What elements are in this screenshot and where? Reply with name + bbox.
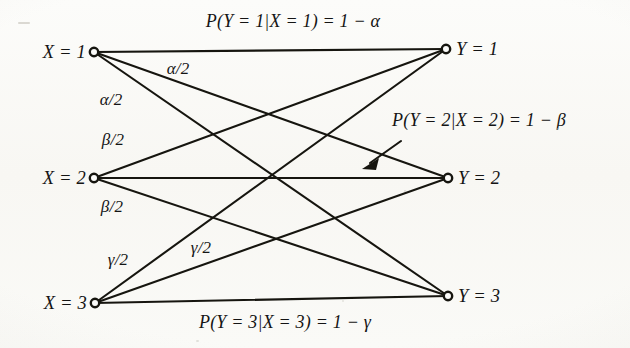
node-x1 [90,48,98,56]
node-x3 [91,299,99,307]
node-y1 [442,45,450,53]
edge-x1-y1 [94,49,446,52]
probability-label-middle: P(Y = 2|X = 2) = 1 − β [392,111,566,129]
edge-label-alpha-half-lower: α/2 [100,91,123,108]
edge-x1-y3 [94,52,448,296]
edge-x3-y1 [95,49,446,303]
graph-canvas [0,0,630,348]
node-label-y3: Y = 3 [458,287,500,306]
node-x2 [90,174,98,182]
node-label-y1: Y = 1 [456,40,498,59]
pointer-arrow-to-middle-edge [362,141,401,170]
node-label-x1: X = 1 [43,43,86,62]
node-y3 [444,292,452,300]
node-label-x2: X = 2 [43,169,86,188]
edge-label-gamma-half-upper: γ/2 [191,239,212,256]
edge-label-beta-half-upper: β/2 [102,131,124,148]
node-label-x3: X = 3 [44,294,87,313]
node-label-y2: Y = 2 [458,169,500,188]
edge-x3-y3 [95,296,448,303]
edge-group [94,49,448,303]
edge-label-beta-half-lower: β/2 [101,198,123,215]
probability-label-bottom: P(Y = 3|X = 3) = 1 − γ [199,313,371,331]
channel-diagram-figure: X = 1 X = 2 X = 3 Y = 1 Y = 2 Y = 3 P(Y … [0,0,630,348]
probability-label-top: P(Y = 1|X = 1) = 1 − α [206,12,380,30]
edge-label-gamma-half-lower: γ/2 [108,251,129,268]
node-y2 [444,174,452,182]
edge-label-alpha-half-upper: α/2 [167,60,190,77]
